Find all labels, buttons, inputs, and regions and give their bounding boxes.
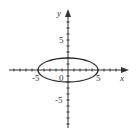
y-axis-label: y [56, 8, 61, 18]
x-tick-label-neg5: -5 [32, 73, 40, 83]
y-axis-arrow-icon [65, 9, 71, 17]
plot-canvas: y x 5 -5 -5 5 0 [0, 0, 136, 132]
x-axis-label: x [119, 73, 124, 83]
ellipse-plot: y x 5 -5 -5 5 0 [0, 0, 136, 132]
y-tick-label-5: 5 [59, 35, 64, 45]
origin-label: 0 [59, 73, 64, 83]
y-tick-label-neg5: -5 [55, 95, 63, 105]
x-tick-label-5: 5 [96, 73, 101, 83]
